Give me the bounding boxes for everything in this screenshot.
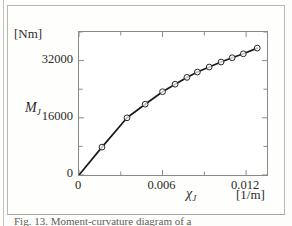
y-tick-label: 16000 bbox=[10, 109, 73, 124]
data-point bbox=[184, 75, 190, 81]
data-point bbox=[194, 69, 200, 75]
plot-area bbox=[78, 31, 268, 176]
data-curve bbox=[79, 48, 257, 175]
data-markers bbox=[99, 45, 260, 150]
figure-panel: [Nm] MJ 01600032000 00.0060.012 χJ [1/m]… bbox=[0, 0, 292, 226]
y-axis-unit: [Nm] bbox=[14, 26, 42, 42]
data-point bbox=[160, 89, 166, 95]
data-point bbox=[142, 101, 148, 107]
data-point bbox=[172, 81, 178, 87]
x-axis-unit: [1/m] bbox=[236, 187, 265, 203]
data-point bbox=[206, 64, 212, 70]
data-point bbox=[124, 115, 130, 121]
axis-ticks bbox=[79, 32, 267, 175]
data-point bbox=[218, 59, 224, 65]
chart-svg bbox=[79, 32, 267, 175]
page-edge-line bbox=[3, 0, 4, 226]
x-tick-label: 0 bbox=[48, 178, 108, 193]
y-tick-label: 32000 bbox=[10, 52, 73, 67]
data-point bbox=[229, 55, 235, 61]
x-axis-label: χJ bbox=[186, 186, 196, 203]
x-tick-label: 0.006 bbox=[132, 178, 192, 193]
x-axis-label-subscript: J bbox=[192, 193, 196, 203]
figure-caption: Fig. 13. Moment-curvature diagram of a bbox=[14, 215, 284, 226]
data-point bbox=[240, 51, 246, 57]
data-point bbox=[254, 45, 260, 51]
data-point bbox=[99, 144, 105, 150]
